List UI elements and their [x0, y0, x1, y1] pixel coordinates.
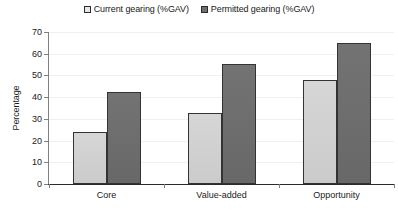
x-axis-category-label: Core	[49, 190, 164, 201]
y-axis-tick-mark	[44, 162, 48, 163]
legend-swatch-permitted-gearing-icon	[201, 6, 208, 13]
legend-item-permitted-gearing: Permitted gearing (%GAV)	[201, 4, 314, 15]
y-axis-tick-labels: 010203040506070	[24, 26, 44, 190]
bar[interactable]	[188, 113, 222, 184]
y-axis-tick-label: 10	[32, 158, 42, 167]
y-axis-tick-label: 0	[37, 180, 42, 189]
y-axis-tick-label: 30	[32, 114, 42, 123]
bar[interactable]	[337, 43, 371, 184]
bar-group	[164, 32, 279, 184]
legend-swatch-current-gearing-icon	[84, 6, 91, 13]
y-axis-tick-mark	[44, 119, 48, 120]
y-axis-tick-label: 50	[32, 71, 42, 80]
y-axis-tick-mark	[44, 184, 48, 185]
x-axis-category-label: Value-added	[164, 190, 279, 201]
y-axis-tick-mark	[44, 32, 48, 33]
x-axis-tick-mark	[394, 184, 395, 188]
x-axis-tick-mark	[49, 184, 50, 188]
legend-item-current-gearing: Current gearing (%GAV)	[84, 4, 189, 15]
x-axis-category-label: Opportunity	[279, 190, 394, 201]
bar-group	[279, 32, 394, 184]
y-axis-title-text: Percentage	[11, 85, 21, 130]
y-axis-title: Percentage	[9, 32, 22, 184]
x-axis-category-labels: CoreValue-addedOpportunity	[49, 190, 394, 201]
chart-legend: Current gearing (%GAV) Permitted gearing…	[0, 4, 398, 15]
y-axis-tick-mark	[44, 97, 48, 98]
y-axis-tick-label: 70	[32, 28, 42, 37]
x-axis-tick-mark	[164, 184, 165, 188]
bar[interactable]	[107, 92, 141, 184]
x-axis-line	[48, 184, 394, 185]
y-axis-tick-label: 20	[32, 136, 42, 145]
bars-container	[49, 32, 394, 184]
bar[interactable]	[303, 80, 337, 184]
y-axis-tick-mark	[44, 75, 48, 76]
y-axis-tick-label: 60	[32, 49, 42, 58]
plot-area: 010203040506070 CoreValue-addedOpportuni…	[24, 26, 394, 190]
bar[interactable]	[222, 64, 256, 185]
legend-label-permitted-gearing: Permitted gearing (%GAV)	[211, 4, 314, 15]
legend-label-current-gearing: Current gearing (%GAV)	[94, 4, 189, 15]
y-axis-tick-label: 40	[32, 93, 42, 102]
bar[interactable]	[73, 132, 107, 184]
x-axis-tick-mark	[279, 184, 280, 188]
bar-group	[49, 32, 164, 184]
y-axis-tick-mark	[44, 54, 48, 55]
y-axis-tick-mark	[44, 141, 48, 142]
bar-chart: Current gearing (%GAV) Permitted gearing…	[0, 0, 398, 217]
